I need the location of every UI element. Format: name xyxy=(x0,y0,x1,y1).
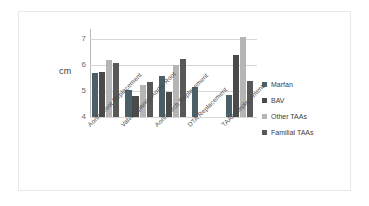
bar-chart-figure: 7 6 5 4 cm Aortic Root ReplacementValve … xyxy=(0,0,369,206)
legend-label: Marfan xyxy=(271,81,293,88)
legend-item-familial-taas[interactable]: Familial TAAs xyxy=(262,125,350,139)
y-axis-title: cm xyxy=(59,66,71,76)
chart-legend: MarfanBAVOther TAAsFamilial TAAs xyxy=(262,77,350,141)
bar[interactable] xyxy=(180,59,186,117)
legend-item-marfan[interactable]: Marfan xyxy=(262,77,350,91)
legend-item-other-taas[interactable]: Other TAAs xyxy=(262,109,350,123)
legend-item-bav[interactable]: BAV xyxy=(262,93,350,107)
y-tick-5: 5 xyxy=(66,87,86,95)
legend-swatch-icon xyxy=(262,114,267,119)
legend-label: BAV xyxy=(271,97,285,104)
y-tick-4: 4 xyxy=(66,113,86,121)
legend-label: Familial TAAs xyxy=(271,129,314,136)
legend-swatch-icon xyxy=(262,98,267,103)
legend-label: Other TAAs xyxy=(271,113,307,120)
legend-swatch-icon xyxy=(262,82,267,87)
y-tick-7: 7 xyxy=(66,35,86,43)
legend-swatch-icon xyxy=(262,130,267,135)
